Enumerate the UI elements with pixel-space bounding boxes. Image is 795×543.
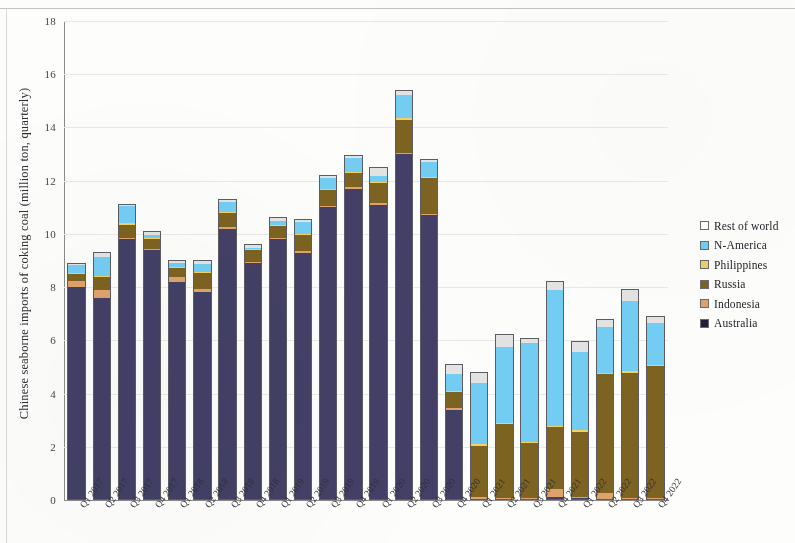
- bar-segment-australia: [67, 287, 85, 500]
- stacked-bar[interactable]: [596, 319, 614, 500]
- bar-segment-rest-of-world: [571, 341, 589, 352]
- bar-group[interactable]: [118, 21, 136, 500]
- bar-segment-australia: [319, 207, 337, 500]
- legend-label: Indonesia: [714, 298, 760, 310]
- y-axis-tick-label: 8: [10, 281, 56, 293]
- bar-group[interactable]: [67, 21, 85, 500]
- bar-segment-russia: [420, 178, 438, 214]
- legend-item-philippines[interactable]: Philippines: [700, 255, 795, 275]
- bar-group[interactable]: [445, 21, 463, 500]
- stacked-bar[interactable]: [193, 260, 211, 500]
- legend-label: Philippines: [714, 259, 767, 271]
- bar-group[interactable]: [369, 21, 387, 500]
- legend-item-n-america[interactable]: N-America: [700, 236, 795, 256]
- bar-segment-russia: [445, 392, 463, 408]
- bar-group[interactable]: [143, 21, 161, 500]
- bar-group[interactable]: [520, 21, 538, 500]
- legend-label: Rest of world: [714, 220, 779, 232]
- bar-segment-russia: [269, 226, 287, 238]
- y-axis-tick-label: 4: [10, 388, 56, 400]
- stacked-bar[interactable]: [395, 90, 413, 500]
- bar-segment-rest-of-world: [596, 319, 614, 327]
- bar-segment-russia: [143, 239, 161, 248]
- legend-swatch-icon: [700, 299, 709, 308]
- stacked-bar[interactable]: [218, 199, 236, 500]
- bar-group[interactable]: [344, 21, 362, 500]
- bar-segment-rest-of-world: [495, 334, 513, 348]
- stacked-bar[interactable]: [571, 341, 589, 500]
- bar-segment-rest-of-world: [369, 167, 387, 176]
- bar-group[interactable]: [646, 21, 664, 500]
- bar-segment-russia: [93, 277, 111, 290]
- bar-segment-n-america: [369, 176, 387, 183]
- bar-group[interactable]: [218, 21, 236, 500]
- scanned-page: Chinese seaborne imports of coking coal …: [0, 0, 795, 543]
- legend-item-australia[interactable]: Australia: [700, 314, 795, 334]
- bar-group[interactable]: [571, 21, 589, 500]
- bar-group[interactable]: [546, 21, 564, 500]
- bar-segment-n-america: [118, 206, 136, 223]
- stacked-bar[interactable]: [143, 231, 161, 500]
- bar-group[interactable]: [294, 21, 312, 500]
- bar-segment-australia: [193, 292, 211, 500]
- stacked-bar[interactable]: [646, 316, 664, 500]
- bar-segment-russia: [395, 120, 413, 153]
- y-axis-tick-label: 18: [10, 15, 56, 27]
- stacked-bar[interactable]: [495, 334, 513, 500]
- bar-segment-n-america: [395, 95, 413, 119]
- bar-group[interactable]: [93, 21, 111, 500]
- legend-item-russia[interactable]: Russia: [700, 275, 795, 295]
- y-axis-tick-label: 2: [10, 441, 56, 453]
- legend-swatch-icon: [700, 260, 709, 269]
- stacked-bar[interactable]: [420, 159, 438, 500]
- stacked-bar[interactable]: [294, 219, 312, 500]
- bar-segment-indonesia: [93, 290, 111, 297]
- stacked-bar[interactable]: [67, 263, 85, 500]
- bar-group[interactable]: [193, 21, 211, 500]
- legend-swatch-icon: [700, 319, 709, 328]
- bar-segment-rest-of-world: [646, 316, 664, 323]
- bar-segment-australia: [218, 229, 236, 500]
- stacked-bar[interactable]: [520, 338, 538, 500]
- bar-segment-n-america: [571, 352, 589, 431]
- stacked-bar[interactable]: [269, 217, 287, 500]
- bar-group[interactable]: [269, 21, 287, 500]
- plot-area: [64, 21, 668, 500]
- bar-segment-rest-of-world: [470, 372, 488, 383]
- legend-item-rest-of-world[interactable]: Rest of world: [700, 216, 795, 236]
- stacked-bar[interactable]: [369, 167, 387, 500]
- bar-group[interactable]: [621, 21, 639, 500]
- bar-segment-n-america: [495, 347, 513, 423]
- bar-segment-n-america: [93, 257, 111, 276]
- bar-segment-australia: [168, 282, 186, 500]
- bar-segment-russia: [67, 274, 85, 281]
- bar-group[interactable]: [420, 21, 438, 500]
- bar-segment-n-america: [344, 158, 362, 171]
- bar-group[interactable]: [596, 21, 614, 500]
- bar-segment-n-america: [520, 343, 538, 441]
- bar-segment-n-america: [621, 301, 639, 372]
- bar-group[interactable]: [495, 21, 513, 500]
- legend-label: Russia: [714, 278, 746, 290]
- bar-segment-australia: [369, 205, 387, 500]
- stacked-bar[interactable]: [93, 252, 111, 500]
- bar-group[interactable]: [244, 21, 262, 500]
- bar-segment-australia: [269, 239, 287, 500]
- bar-group[interactable]: [470, 21, 488, 500]
- stacked-bar[interactable]: [621, 289, 639, 500]
- bar-segment-australia: [395, 154, 413, 500]
- stacked-bar[interactable]: [244, 244, 262, 500]
- bar-segment-rest-of-world: [621, 289, 639, 301]
- bar-group[interactable]: [395, 21, 413, 500]
- bar-segment-australia: [143, 250, 161, 500]
- bar-group[interactable]: [319, 21, 337, 500]
- bar-group[interactable]: [168, 21, 186, 500]
- bar-segment-australia: [244, 263, 262, 500]
- stacked-bar[interactable]: [344, 155, 362, 500]
- stacked-bar[interactable]: [118, 204, 136, 500]
- stacked-bar[interactable]: [168, 260, 186, 500]
- stacked-bar[interactable]: [546, 281, 564, 500]
- legend-item-indonesia[interactable]: Indonesia: [700, 294, 795, 314]
- legend-swatch-icon: [700, 241, 709, 250]
- stacked-bar[interactable]: [319, 175, 337, 500]
